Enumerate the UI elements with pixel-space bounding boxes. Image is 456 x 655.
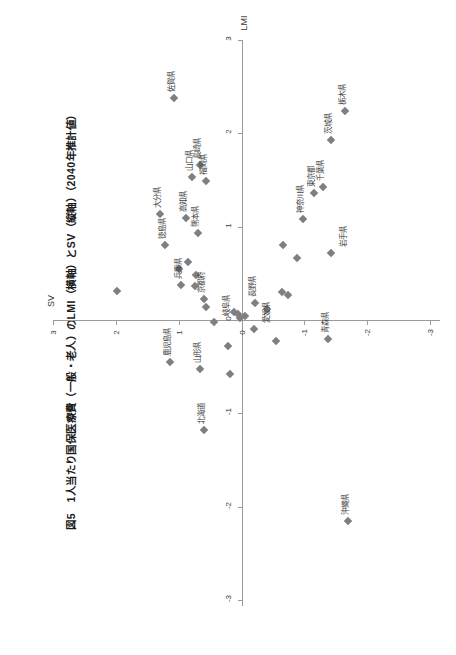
data-point[interactable] [113,287,121,295]
data-point-label: 神奈川県 [297,185,305,213]
data-point[interactable] [251,299,259,307]
sv-tick-label: 1 [174,322,183,344]
data-point[interactable] [310,189,318,197]
data-point[interactable] [210,318,218,326]
sv-tick-label: 3 [49,322,58,344]
data-point-label: 茨城県 [325,113,333,134]
lmi-tick [238,40,242,41]
sv-tick-label: -2 [363,322,372,344]
lmi-tick-label: -3 [223,588,232,610]
data-point[interactable] [161,241,169,249]
data-point[interactable] [156,209,164,217]
data-point-label: 佐賀県 [168,71,176,92]
data-point-label: 東京都 [308,166,316,187]
lmi-tick [238,600,242,601]
data-point[interactable] [279,241,287,249]
data-point-label: 兵庫県 [175,258,183,279]
lmi-tick [238,227,242,228]
sv-tick-label: -1 [300,322,309,344]
data-point-label: 山形県 [194,342,202,363]
data-point[interactable] [177,280,185,288]
data-point[interactable] [319,183,327,191]
data-point-label: 徳島県 [159,218,167,239]
data-point[interactable] [188,173,196,181]
data-point[interactable] [166,358,174,366]
data-point-label: 長野県 [249,276,257,297]
data-point-label: 千葉県 [317,160,325,181]
lmi-tick-label: 1 [223,214,232,236]
data-point-label: 北海道 [198,403,206,424]
data-point[interactable] [293,254,301,262]
data-point[interactable] [299,215,307,223]
data-point-label: 福岡県 [200,154,208,175]
data-point-label: 高知県 [180,191,188,212]
data-point-label: 青森県 [322,312,330,333]
lmi-tick [238,413,242,414]
data-point[interactable] [343,516,351,524]
data-point-label: 岩手県 [340,226,348,247]
figure-page: 図5 1人当たり国保医療費（一般・老人）のLMI（横軸）とSV（縦軸）（2040… [0,0,456,655]
data-point[interactable] [200,295,208,303]
data-point[interactable] [272,336,280,344]
lmi-tick-label: 3 [223,28,232,50]
sv-tick-label: 2 [111,322,120,344]
lmi-tick-label: -1 [223,401,232,423]
data-point[interactable] [196,364,204,372]
data-point-label: 大分県 [154,187,162,208]
lmi-axis-label: LMI [239,8,249,38]
data-point[interactable] [225,370,233,378]
data-point[interactable] [284,291,292,299]
sv-axis-label: SV [46,286,56,316]
data-point-label: 鹿児島県 [164,328,172,356]
data-point-label: 山口県 [186,150,194,171]
data-point[interactable] [170,94,178,102]
data-point[interactable] [223,342,231,350]
data-point-label: 沖縄県 [342,494,350,515]
data-point[interactable] [341,107,349,115]
data-point-label: 栃木県 [339,84,347,105]
lmi-tick [238,507,242,508]
data-point-label: 京都府 [198,272,206,293]
data-point[interactable] [326,136,334,144]
data-point[interactable] [184,258,192,266]
data-point[interactable] [202,177,210,185]
data-point[interactable] [182,214,190,222]
data-point[interactable] [327,249,335,257]
data-point[interactable] [201,303,209,311]
data-point[interactable] [194,229,202,237]
data-point-label: 岐阜県 [223,295,231,316]
lmi-tick-label: -2 [223,494,232,516]
data-point[interactable] [250,325,258,333]
lmi-tick-label: 2 [223,121,232,143]
scatter-chart: 3210-1-2-33210-1-2-3LMISV佐賀県栃木県茨城県長崎県山口県… [40,12,452,632]
sv-tick-label: 0 [237,322,246,344]
lmi-tick [238,133,242,134]
data-point-label: 愛媛県 [263,302,271,323]
data-point-label: 熊本県 [192,206,200,227]
data-point[interactable] [323,334,331,342]
data-point[interactable] [200,426,208,434]
sv-tick-label: -3 [426,322,435,344]
